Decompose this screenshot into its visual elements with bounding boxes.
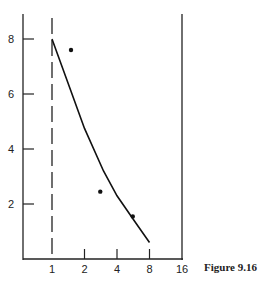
y-tick-label: 8 — [8, 33, 14, 45]
x-tick-label: 1 — [49, 263, 55, 275]
x-tick-label: 2 — [81, 263, 87, 275]
y-tick-label: 4 — [8, 143, 14, 155]
x-tick-label: 4 — [114, 263, 120, 275]
chart: 2468 124816 — [0, 0, 262, 290]
x-tick-label: 8 — [146, 263, 152, 275]
data-point — [98, 189, 102, 193]
fitted-curve — [52, 39, 150, 243]
y-tick-label: 2 — [8, 198, 14, 210]
y-tick-label: 6 — [8, 88, 14, 100]
figure-caption: Figure 9.16 — [204, 261, 257, 273]
data-points — [69, 48, 135, 219]
y-ticks: 2468 — [8, 33, 34, 210]
data-point — [69, 48, 73, 52]
data-point — [131, 214, 135, 218]
axes — [23, 14, 183, 260]
x-tick-label: 16 — [176, 263, 188, 275]
x-ticks: 124816 — [49, 249, 188, 275]
